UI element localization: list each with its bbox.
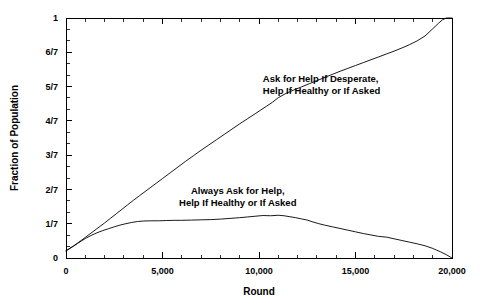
series-line-1 [66,215,452,258]
x-axis-tick-labels: 05,00010,00015,00020,000 [63,266,465,276]
data-series [66,18,452,258]
axes [66,18,452,258]
y-tick-label: 2/7 [45,185,58,195]
annotation-0: Ask for Help If Desperate,Help If Health… [263,73,381,96]
x-tick-label: 20,000 [438,266,466,276]
y-tick-label: 0 [53,253,58,263]
y-axis-title: Fraction of Population [9,85,20,191]
annotation-line: Ask for Help If Desperate, [263,73,379,84]
y-tick-label: 6/7 [45,47,58,57]
x-tick-label: 5,000 [151,266,174,276]
y-tick-label: 3/7 [45,150,58,160]
x-tick-label: 0 [63,266,68,276]
y-axis-tick-labels: 01/72/73/74/75/76/71 [45,13,58,263]
line-chart: 05,00010,00015,00020,000 01/72/73/74/75/… [0,0,480,306]
x-tick-label: 15,000 [342,266,370,276]
plot-frame [66,18,452,258]
y-tick-label: 4/7 [45,116,58,126]
series-annotations: Ask for Help If Desperate,Help If Health… [179,73,380,208]
x-axis-title: Round [243,286,275,297]
y-tick-label: 5/7 [45,82,58,92]
annotation-line: Always Ask for Help, [191,185,285,196]
chart-figure: 05,00010,00015,00020,000 01/72/73/74/75/… [0,0,480,306]
annotation-1: Always Ask for Help,Help If Healthy or I… [179,185,297,208]
x-tick-label: 10,000 [245,266,273,276]
y-tick-label: 1 [53,13,58,23]
y-tick-label: 1/7 [45,219,58,229]
annotation-line: Help If Healthy or If Asked [263,85,381,96]
axis-ticks [66,18,452,258]
annotation-line: Help If Healthy or If Asked [179,197,297,208]
